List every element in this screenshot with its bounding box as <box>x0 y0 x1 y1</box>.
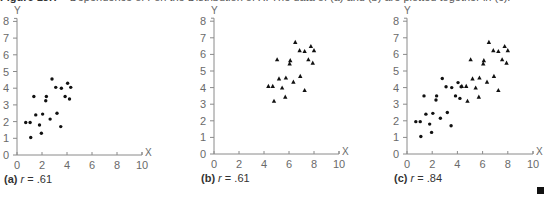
data-point-circle <box>41 112 44 115</box>
data-point-triangle <box>477 95 481 99</box>
data-point-circle <box>435 94 438 97</box>
x-tick-label: 8 <box>311 158 317 170</box>
x-tick-label: 8 <box>114 159 120 171</box>
data-point-circle <box>458 97 461 100</box>
data-point-circle <box>29 136 32 139</box>
x-axis-label: X <box>536 146 543 157</box>
data-point-triangle <box>496 49 500 53</box>
data-point-circle <box>38 123 41 126</box>
data-point-triangle <box>465 99 469 103</box>
x-tick-label: 4 <box>64 159 70 171</box>
data-point-triangle <box>473 85 477 89</box>
data-point-triangle <box>504 61 508 65</box>
x-tick-label: 10 <box>136 159 148 171</box>
data-point-triangle <box>470 76 474 80</box>
y-tick-label: 5 <box>3 66 9 78</box>
data-point-circle <box>54 86 57 89</box>
y-tick-label: 8 <box>3 15 9 27</box>
data-point-triangle <box>491 48 495 52</box>
x-tick-label: 0 <box>404 158 410 170</box>
data-point-circle <box>419 135 422 138</box>
data-point-circle <box>44 99 47 102</box>
y-tick-label: 2 <box>3 116 9 128</box>
data-point-circle <box>40 132 43 135</box>
data-point-circle <box>454 94 457 97</box>
data-point-triangle <box>482 58 486 62</box>
y-tick-label: 7 <box>393 32 399 44</box>
y-tick-label: 3 <box>3 99 9 111</box>
y-tick-label: 0 <box>200 148 206 160</box>
y-tick-label: 4 <box>3 82 9 94</box>
data-point-circle <box>446 111 449 114</box>
x-tick-label: 6 <box>480 158 486 170</box>
data-point-circle <box>69 86 72 89</box>
data-point-circle <box>50 77 53 80</box>
data-point-circle <box>32 95 35 98</box>
y-tick-label: 1 <box>3 132 9 144</box>
data-point-triangle <box>277 76 281 80</box>
y-tick-label: 6 <box>200 48 206 60</box>
y-tick-label: 0 <box>3 149 9 161</box>
y-tick-label: 4 <box>393 82 399 94</box>
y-tick-label: 8 <box>200 15 206 27</box>
panel-label: (c) r = .84 <box>394 172 442 184</box>
y-tick-label: 1 <box>200 131 206 143</box>
data-point-circle <box>450 86 453 89</box>
data-point-circle <box>434 98 437 101</box>
data-point-circle <box>66 81 69 84</box>
data-point-triangle <box>500 57 504 61</box>
y-tick-label: 7 <box>200 32 206 44</box>
data-point-circle <box>48 117 51 120</box>
data-point-circle <box>422 94 425 97</box>
y-axis-label: Y <box>14 5 21 16</box>
data-point-circle <box>428 122 431 125</box>
x-tick-label: 0 <box>211 158 217 170</box>
data-point-triangle <box>306 57 310 61</box>
y-axis-label: Y <box>404 5 411 16</box>
y-tick-label: 6 <box>3 49 9 61</box>
data-point-circle <box>45 95 48 98</box>
data-point-triangle <box>293 40 297 44</box>
y-tick-label: 3 <box>200 98 206 110</box>
data-point-circle <box>34 113 37 116</box>
data-point-triangle <box>275 57 279 61</box>
y-tick-label: 8 <box>393 15 399 27</box>
data-point-triangle <box>311 61 315 65</box>
data-point-triangle <box>291 80 295 84</box>
data-point-triangle <box>487 40 491 44</box>
x-axis-label: X <box>145 147 152 158</box>
data-point-circle <box>59 125 62 128</box>
data-point-circle <box>414 120 417 123</box>
panel-label: (a) r = .61 <box>4 173 52 185</box>
x-tick-label: 4 <box>261 158 267 170</box>
data-point-triangle <box>312 48 316 52</box>
data-point-triangle <box>302 49 306 53</box>
data-point-triangle <box>271 84 275 88</box>
data-point-triangle <box>502 44 506 48</box>
data-point-circle <box>444 85 447 88</box>
x-tick-label: 2 <box>429 158 435 170</box>
data-point-circle <box>68 97 71 100</box>
y-tick-label: 4 <box>200 82 206 94</box>
data-point-triangle <box>492 74 496 78</box>
scatter-panel-a: 0123456780246810XY(a) r = .61 <box>3 5 152 185</box>
x-tick-label: 2 <box>39 159 45 171</box>
data-point-circle <box>456 81 459 84</box>
data-point-circle <box>424 112 427 115</box>
data-point-circle <box>439 117 442 120</box>
data-point-triangle <box>284 75 288 79</box>
x-tick-label: 0 <box>14 159 20 171</box>
y-tick-label: 5 <box>200 65 206 77</box>
x-axis-label: X <box>342 146 349 157</box>
data-point-triangle <box>272 99 276 103</box>
x-tick-label: 2 <box>236 158 242 170</box>
panel-label: (b) r = .61 <box>201 172 250 184</box>
y-tick-label: 2 <box>393 115 399 127</box>
data-point-triangle <box>468 57 472 61</box>
data-point-circle <box>24 121 27 124</box>
scatter-panel-c: 0123456780246810XY(c) r = .84 <box>393 5 543 184</box>
y-tick-label: 6 <box>393 48 399 60</box>
end-of-figure-mark-icon <box>537 187 544 194</box>
data-point-circle <box>60 87 63 90</box>
data-point-circle <box>63 95 66 98</box>
